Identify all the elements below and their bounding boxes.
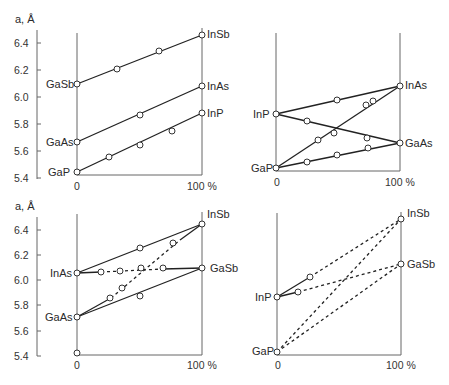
x-label-0: 0: [275, 359, 281, 371]
compound-label: InAs: [405, 79, 428, 91]
lattice-constant-charts: a, Å 6.4 6.2 6.0 5.8 5.6 5.4 0 100 % GaS…: [0, 0, 449, 385]
compound-label: InAs: [207, 80, 230, 92]
tick-label: 5.4: [14, 350, 29, 362]
tick-label: 6.0: [14, 274, 29, 286]
compound-label: GaP: [48, 166, 70, 178]
compound-label: InP: [207, 107, 224, 119]
compound-label: GaP: [251, 162, 273, 174]
y-axis-label: a, Å: [15, 200, 35, 212]
data-points: [74, 32, 205, 175]
compound-label: GaP: [252, 345, 274, 357]
tick-label: 5.6: [14, 325, 29, 337]
compound-label: GaSb: [46, 78, 74, 90]
panel-bottom-left: a, Å 6.4 6.2 6.0 5.8 5.6 5.4 0 100 %: [14, 200, 238, 371]
tick-label: 6.2: [14, 64, 29, 76]
compound-label: InAs: [50, 267, 73, 279]
tick-label: 6.2: [14, 249, 29, 261]
tick-label: 6.0: [14, 91, 29, 103]
panel-top-right: 0 100 % InP GaP InAs GaAs: [251, 33, 433, 188]
panel-top-left: a, Å 6.4 6.2 6.0 5.8 5.6 5.4 0 100 % GaS…: [14, 13, 230, 192]
compound-label: GaSb: [407, 258, 435, 270]
tick-label: 6.4: [14, 37, 29, 49]
compound-label: InSb: [207, 208, 230, 220]
tick-label: 5.8: [14, 118, 29, 130]
tick-label: 5.4: [14, 172, 29, 184]
x-label-0: 0: [74, 180, 80, 192]
compound-label: GaSb: [210, 262, 238, 274]
tick-label: 6.4: [14, 224, 29, 236]
tick-label: 5.6: [14, 145, 29, 157]
tick-label: 5.8: [14, 299, 29, 311]
compound-label: InSb: [407, 207, 430, 219]
x-label-0: 0: [274, 176, 280, 188]
compound-label: GaAs: [46, 136, 74, 148]
x-label-100: 100 %: [187, 180, 217, 192]
data-points: [74, 221, 205, 356]
compound-label: InP: [253, 108, 270, 120]
compound-label: InP: [255, 291, 272, 303]
x-label-100: 100 %: [187, 359, 217, 371]
compound-label: InSb: [207, 28, 230, 40]
x-label-100: 100 %: [385, 176, 415, 188]
panel-bottom-right: 0 100 % InP GaP InSb GaSb: [252, 207, 435, 371]
compound-label: GaAs: [405, 137, 433, 149]
x-label-0: 0: [74, 359, 80, 371]
y-axis-label: a, Å: [15, 13, 35, 25]
x-label-100: 100 %: [386, 359, 416, 371]
compound-label: GaAs: [45, 311, 73, 323]
